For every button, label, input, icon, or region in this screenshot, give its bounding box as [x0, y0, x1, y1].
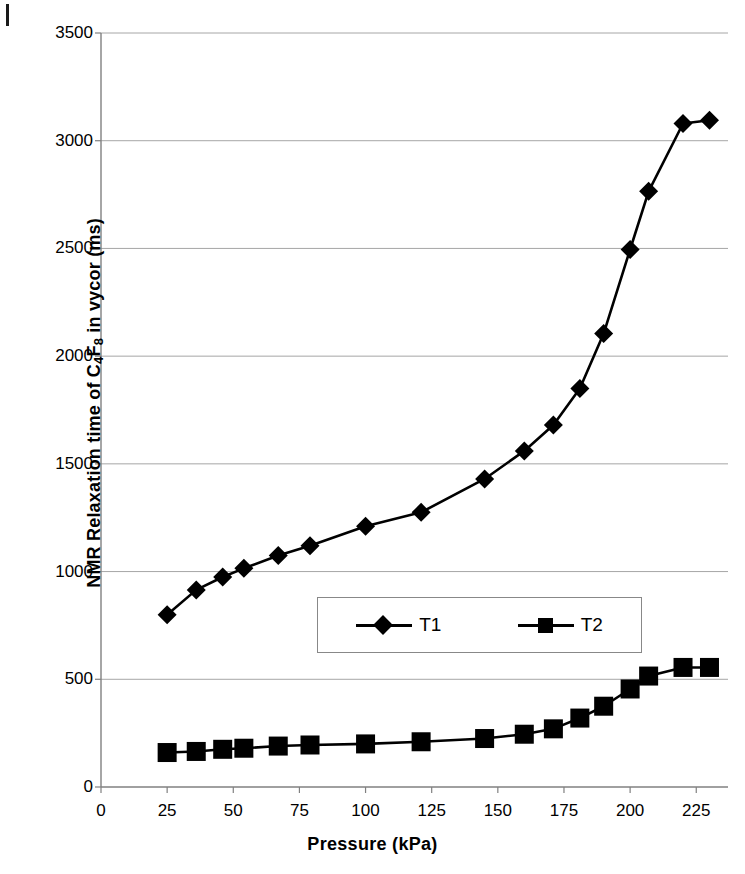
x-tickmarks-group	[101, 787, 696, 793]
chart-plot-svg	[0, 0, 745, 874]
x-axis-title: Pressure (kPa)	[0, 834, 745, 855]
y-tick-label-2000: 2000	[15, 347, 93, 364]
y-axis-title: NMR Relaxation time of C4F8 in vycor (ms…	[84, 53, 106, 753]
chart-figure: 0500100015002000250030003500 02550751001…	[0, 0, 745, 874]
data-point-t2-13	[621, 679, 640, 698]
data-point-t1-14	[639, 182, 658, 201]
legend-item-t1[interactable]: T1	[356, 614, 441, 636]
data-point-t2-16	[700, 658, 719, 677]
y-tick-label-500: 500	[15, 670, 93, 687]
legend-label-t1: T1	[419, 614, 441, 636]
data-point-t2-8	[475, 729, 494, 748]
legend-diamond-marker-icon	[356, 616, 412, 634]
data-point-t2-9	[515, 725, 534, 744]
chart-page: 0500100015002000250030003500 02550751001…	[0, 0, 745, 874]
y-tick-label-3500: 3500	[15, 24, 93, 41]
chart-legend: T1 T2	[317, 597, 642, 653]
y-tick-label-1500: 1500	[15, 455, 93, 472]
data-point-t2-12	[594, 697, 613, 716]
data-point-t2-4	[269, 737, 288, 756]
legend-label-t2: T2	[581, 614, 603, 636]
data-point-t1-11	[570, 379, 589, 398]
series-line-t1	[167, 120, 709, 614]
x-tick-label-225: 225	[656, 802, 736, 819]
data-point-t2-11	[570, 709, 589, 728]
axes-group	[101, 33, 728, 787]
data-point-t1-8	[475, 469, 494, 488]
legend-item-t2[interactable]: T2	[518, 614, 603, 636]
legend-row: T1 T2	[318, 598, 641, 652]
data-point-t1-12	[594, 324, 613, 343]
y-tick-label-3000: 3000	[15, 132, 93, 149]
data-point-t2-6	[356, 734, 375, 753]
data-series-group	[158, 111, 719, 762]
data-point-t1-15	[674, 114, 693, 133]
legend-square-marker-icon	[518, 616, 574, 634]
y-axis-title-mid: F	[84, 345, 104, 356]
data-point-t1-4	[269, 546, 288, 565]
data-point-t2-3	[234, 739, 253, 758]
data-point-t2-1	[187, 742, 206, 761]
data-point-t1-6	[356, 517, 375, 536]
data-point-t2-5	[301, 735, 320, 754]
data-point-t1-5	[301, 536, 320, 555]
data-point-t1-16	[700, 111, 719, 130]
data-point-t2-10	[544, 719, 563, 738]
data-point-t2-2	[213, 740, 232, 759]
data-point-t1-7	[412, 503, 431, 522]
y-tick-label-0: 0	[15, 778, 93, 795]
y-tick-label-2500: 2500	[15, 239, 93, 256]
data-point-t2-7	[412, 732, 431, 751]
y-axis-title-pre: NMR Relaxation time of C	[84, 364, 104, 588]
data-point-t2-14	[639, 667, 658, 686]
data-point-t2-15	[674, 658, 693, 677]
y-tick-label-1000: 1000	[15, 563, 93, 580]
data-point-t1-2	[213, 567, 232, 586]
y-axis-title-sub-8: 8	[91, 338, 106, 345]
data-point-t1-3	[234, 559, 253, 578]
y-axis-title-post: in vycor (ms)	[84, 218, 104, 338]
y-axis-title-sub-4: 4	[91, 357, 106, 364]
data-point-t1-13	[621, 240, 640, 259]
data-point-t2-0	[158, 743, 177, 762]
